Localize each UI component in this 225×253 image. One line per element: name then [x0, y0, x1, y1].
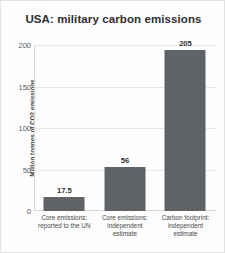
y-tick-50: 50 [5, 165, 31, 174]
x-axis-labels: Core emissions: reported to the UN Core … [34, 214, 216, 253]
chart-figure: USA: military carbon emissions Million t… [0, 0, 225, 253]
x-label-3-line-1: Carbon footprint: [155, 214, 216, 222]
x-label-2-line-3: estimate [95, 230, 156, 238]
bar-value-1: 17.5 [57, 186, 72, 195]
y-axis-ticks: 200 150 100 50 0 [1, 45, 31, 211]
bar-slot-2: 56 [95, 45, 156, 211]
bar-carbon-footprint-independent[interactable] [165, 50, 206, 211]
bar-slot-1: 17.5 [34, 45, 95, 211]
bar-value-2: 56 [121, 156, 129, 165]
x-label-3: Carbon footprint: independent estimate [155, 214, 216, 239]
y-tick-150: 150 [5, 82, 31, 91]
y-tick-200: 200 [5, 41, 31, 50]
x-label-2: Core emissions: independent estimate [95, 214, 156, 239]
x-label-2-line-1: Core emissions: [95, 214, 156, 222]
chart-title: USA: military carbon emissions [1, 13, 225, 25]
bar-value-3: 205 [179, 39, 192, 48]
y-tick-100: 100 [5, 124, 31, 133]
x-label-1: Core emissions: reported to the UN [34, 214, 95, 230]
bar-slot-3: 205 [155, 45, 216, 211]
x-label-3-line-2: independent [155, 222, 216, 230]
y-tick-0: 0 [5, 207, 31, 216]
bar-core-emissions-independent[interactable] [104, 167, 145, 211]
plot-area: 17.5 56 205 [34, 45, 216, 211]
x-label-1-line-2: reported to the UN [34, 222, 95, 230]
x-label-3-line-3: estimate [155, 230, 216, 238]
x-label-1-line-1: Core emissions: [34, 214, 95, 222]
x-label-2-line-2: independent [95, 222, 156, 230]
bar-core-emissions-reported-un[interactable] [44, 197, 85, 211]
